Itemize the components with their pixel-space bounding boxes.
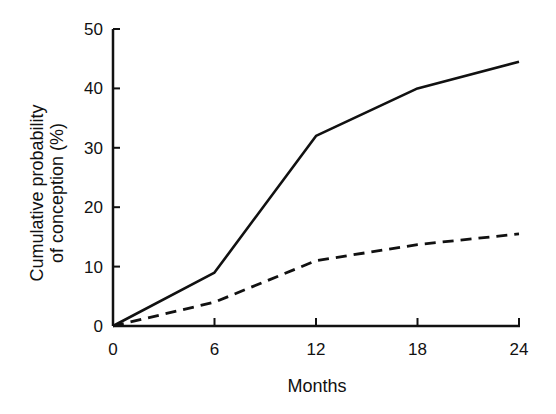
y-axis-title-line: of conception (%) [47, 123, 67, 263]
line-chart: 0102030405006121824MonthsCumulative prob… [0, 0, 556, 414]
x-tick-label: 6 [210, 340, 219, 359]
dashed-series-line [113, 234, 519, 326]
y-tick-label: 40 [84, 79, 103, 98]
x-tick-label: 12 [307, 340, 326, 359]
axes [113, 29, 520, 326]
solid-series-line [113, 62, 519, 326]
y-tick-label: 10 [84, 258, 103, 277]
y-tick-label: 30 [84, 139, 103, 158]
y-axis-title: Cumulative probabilityof conception (%) [27, 104, 67, 281]
x-tick-label: 0 [108, 340, 117, 359]
series-group [113, 62, 519, 326]
y-tick-label: 20 [84, 198, 103, 217]
y-tick-label: 0 [94, 317, 103, 336]
y-axis-title-line: Cumulative probability [27, 104, 47, 281]
x-tick-label: 24 [510, 340, 529, 359]
x-tick-label: 18 [408, 340, 427, 359]
y-tick-label: 50 [84, 20, 103, 39]
labels-group: 0102030405006121824MonthsCumulative prob… [27, 20, 528, 396]
x-axis-title: Months [287, 376, 346, 396]
